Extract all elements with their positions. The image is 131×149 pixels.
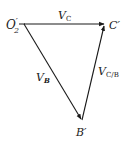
vector-vb <box>24 24 81 119</box>
vector-label-vb: VB <box>36 71 50 85</box>
point-label-c: C′ <box>109 19 120 32</box>
point-label-origin: O′2 <box>6 17 19 35</box>
vector-label-vcb: VC/B <box>98 65 119 79</box>
velocity-diagram: O′2 C′ B′ VC VB VC/B <box>0 0 131 149</box>
point-label-b: B′ <box>75 126 87 139</box>
vector-label-vc: VC <box>58 9 71 23</box>
